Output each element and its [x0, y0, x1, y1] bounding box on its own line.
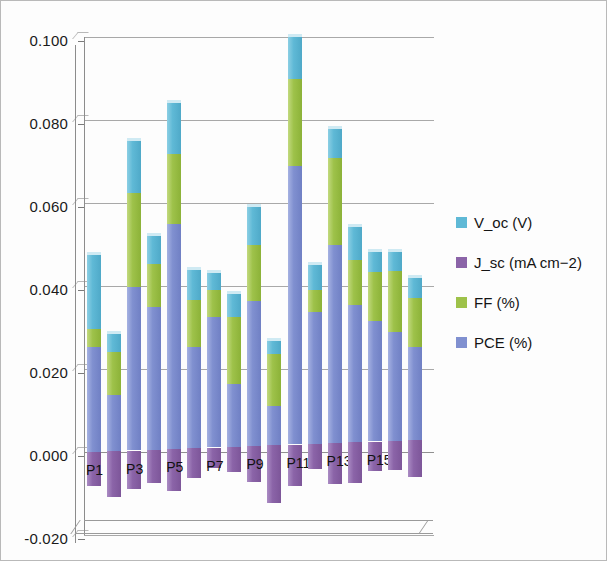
bar-top-cap	[207, 270, 221, 273]
bar-segment-ff[interactable]	[308, 290, 322, 312]
bar-segment-jsc[interactable]	[227, 447, 241, 472]
bar-segment-ff[interactable]	[408, 298, 422, 347]
bar-segment-voc[interactable]	[247, 207, 261, 244]
bar-column[interactable]	[227, 1, 241, 561]
bar-segment-pce[interactable]	[308, 312, 322, 444]
bar-segment-ff[interactable]	[348, 260, 362, 305]
bar-column[interactable]	[308, 1, 322, 561]
y-axis-tick-mark	[78, 539, 85, 540]
bar-column[interactable]	[127, 1, 141, 561]
bar-column[interactable]	[187, 1, 201, 561]
bar-segment-ff[interactable]	[388, 271, 402, 332]
legend-swatch-icon	[456, 297, 467, 308]
legend-label: PCE (%)	[474, 334, 532, 351]
bar-segment-jsc[interactable]	[187, 448, 201, 478]
bar-segment-pce[interactable]	[247, 301, 261, 446]
bar-segment-pce[interactable]	[87, 347, 101, 452]
bar-segment-voc[interactable]	[187, 270, 201, 300]
bar-segment-pce[interactable]	[408, 347, 422, 440]
bar-segment-jsc[interactable]	[267, 445, 281, 503]
bar-segment-jsc[interactable]	[408, 440, 422, 477]
bar-column[interactable]	[167, 1, 181, 561]
legend-item[interactable]: FF (%)	[456, 294, 582, 311]
x-axis-tick-label: P7	[206, 458, 223, 474]
bar-segment-jsc[interactable]	[308, 444, 322, 470]
bar-segment-voc[interactable]	[348, 227, 362, 261]
bar-segment-pce[interactable]	[388, 332, 402, 441]
x-axis-tick-label: P1	[86, 462, 103, 478]
legend-label: J_sc (mA cm−2)	[474, 254, 582, 271]
bar-column[interactable]	[147, 1, 161, 561]
bar-segment-pce[interactable]	[288, 166, 302, 444]
bar-segment-jsc[interactable]	[388, 441, 402, 470]
bar-segment-voc[interactable]	[127, 141, 141, 193]
bar-column[interactable]	[247, 1, 261, 561]
bar-segment-voc[interactable]	[288, 37, 302, 80]
bar-segment-ff[interactable]	[87, 329, 101, 347]
bar-segment-pce[interactable]	[328, 245, 342, 443]
legend-label: FF (%)	[474, 294, 520, 311]
bar-top-cap	[87, 252, 101, 255]
bar-segment-pce[interactable]	[167, 224, 181, 449]
bar-segment-voc[interactable]	[147, 236, 161, 264]
bar-segment-voc[interactable]	[368, 252, 382, 272]
bar-segment-pce[interactable]	[348, 305, 362, 442]
bar-column[interactable]	[107, 1, 121, 561]
bar-top-cap	[388, 249, 402, 252]
bar-segment-voc[interactable]	[87, 255, 101, 329]
bar-segment-ff[interactable]	[167, 154, 181, 224]
bar-top-cap	[127, 138, 141, 141]
bar-column[interactable]	[408, 1, 422, 561]
bar-segment-ff[interactable]	[288, 79, 302, 166]
bar-top-cap	[267, 338, 281, 341]
bar-segment-voc[interactable]	[408, 278, 422, 299]
bar-segment-jsc[interactable]	[147, 450, 161, 483]
bar-segment-pce[interactable]	[127, 287, 141, 451]
bar-segment-pce[interactable]	[368, 321, 382, 441]
bar-segment-ff[interactable]	[328, 158, 342, 244]
bar-segment-pce[interactable]	[227, 384, 241, 447]
bar-segment-ff[interactable]	[368, 272, 382, 321]
bar-segment-ff[interactable]	[227, 317, 241, 383]
bar-segment-jsc[interactable]	[348, 442, 362, 483]
bar-segment-voc[interactable]	[167, 103, 181, 154]
y-axis-front-line	[75, 45, 76, 543]
bar-segment-pce[interactable]	[207, 317, 221, 448]
bar-segment-ff[interactable]	[187, 300, 201, 347]
legend-item[interactable]: J_sc (mA cm−2)	[456, 254, 582, 271]
bar-segment-voc[interactable]	[328, 129, 342, 158]
bar-column[interactable]	[328, 1, 342, 561]
bar-segment-pce[interactable]	[187, 347, 201, 448]
bar-segment-ff[interactable]	[207, 290, 221, 317]
bar-top-cap	[348, 224, 362, 227]
bar-column[interactable]	[207, 1, 221, 561]
bar-segment-voc[interactable]	[388, 252, 402, 271]
bar-segment-ff[interactable]	[127, 193, 141, 287]
bar-segment-voc[interactable]	[267, 341, 281, 354]
bar-segment-pce[interactable]	[267, 406, 281, 445]
bar-segment-ff[interactable]	[267, 354, 281, 406]
bar-segment-voc[interactable]	[207, 273, 221, 290]
x-axis-tick-label: P9	[246, 456, 263, 472]
bar-segment-voc[interactable]	[227, 294, 241, 318]
bar-segment-ff[interactable]	[247, 245, 261, 301]
x-axis-tick-label: P3	[126, 461, 143, 477]
bar-segment-jsc[interactable]	[107, 451, 121, 497]
y-axis-tick-label: 0.060	[6, 198, 68, 215]
legend-item[interactable]: PCE (%)	[456, 334, 582, 351]
bar-segment-voc[interactable]	[308, 265, 322, 290]
bar-column[interactable]	[267, 1, 281, 561]
bar-segment-ff[interactable]	[107, 352, 121, 395]
legend-swatch-icon	[456, 257, 467, 268]
bar-segment-ff[interactable]	[147, 264, 161, 307]
bar-segment-voc[interactable]	[107, 334, 121, 353]
legend-item[interactable]: V_oc (V)	[456, 214, 582, 231]
legend-label: V_oc (V)	[474, 214, 532, 231]
bar-top-cap	[147, 233, 161, 236]
bar-segment-pce[interactable]	[147, 307, 161, 450]
bar-column[interactable]	[348, 1, 362, 561]
bar-column[interactable]	[288, 1, 302, 561]
bar-column[interactable]	[388, 1, 402, 561]
bar-segment-pce[interactable]	[107, 395, 121, 451]
bar-column[interactable]	[368, 1, 382, 561]
